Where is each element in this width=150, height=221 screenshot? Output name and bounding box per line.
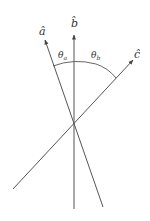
label-theta-b: θb xyxy=(91,50,100,61)
label-a-hat: â xyxy=(39,25,46,38)
label-b-hat: b̂ xyxy=(71,16,78,30)
vector-diagram: â b̂ ĉ θa θb xyxy=(0,0,150,221)
label-theta-a: θa xyxy=(58,50,67,61)
angle-arc xyxy=(53,61,116,78)
vector-c-line xyxy=(13,60,133,189)
label-c-hat: ĉ xyxy=(134,48,140,61)
